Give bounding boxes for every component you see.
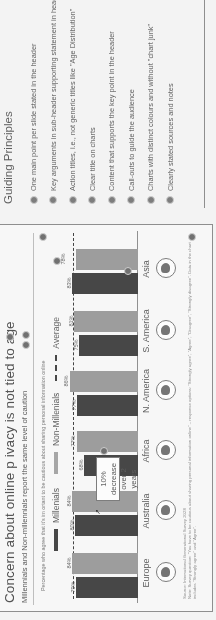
principle-item: Key arguments in sub-header supporting s… <box>44 0 64 204</box>
slide-subtitle: Millennials and Non-millennials report t… <box>20 391 29 603</box>
bullet-2-icon <box>49 196 57 204</box>
bar-chart: 79% 84% 80% 84% 68% 77% 77% 86% 75% 81% <box>62 231 138 603</box>
bar-n-america-non-millennials <box>70 371 138 392</box>
callout-box: 10% decrease over 2 years <box>96 457 120 501</box>
badge-3-icon: 3 <box>22 331 30 339</box>
bar-s-america-non-millennials <box>74 311 138 332</box>
legend-millennials-label: Millenials <box>51 488 61 523</box>
callout-line-1: 10% decrease <box>99 458 119 500</box>
bar-n-america-millennials <box>77 395 138 416</box>
globe-africa-icon <box>156 440 176 460</box>
bullet-7-icon <box>147 196 155 204</box>
cursor-arrow-icon: ↗ <box>94 509 102 515</box>
principle-item: Clear title on charts <box>83 0 103 204</box>
bullet-1-icon <box>30 196 38 204</box>
principle-item: One main point per slide stated in the h… <box>24 0 44 204</box>
principle-text: Clearly stated sources and notes <box>166 83 175 191</box>
guiding-principles-panel: Guiding Principles One main point per sl… <box>0 0 205 208</box>
bullet-6-icon <box>127 196 135 204</box>
principle-text: Content that supports the key point in t… <box>107 31 116 191</box>
header-divider <box>33 233 34 605</box>
principle-text: Key arguments in sub-header supporting s… <box>49 0 58 191</box>
chart-title: Percentage who agree that it's im ortant… <box>40 360 46 591</box>
category-asia: Asia <box>141 239 151 299</box>
globe-australia-icon <box>156 500 176 520</box>
bar-europe-millennials <box>76 577 138 598</box>
badge-7-icon: 7 <box>124 267 132 275</box>
legend-average-dash <box>55 355 57 381</box>
principle-text: One main point per slide stated in the h… <box>29 44 38 192</box>
rotated-slide-canvas: Concern about online p ivacy is not tied… <box>0 0 216 620</box>
bullet-8-icon <box>166 196 174 204</box>
callout-line-2: over 2 years <box>119 458 139 500</box>
value-label: 78% <box>60 247 66 271</box>
globe-asia-icon <box>156 258 176 278</box>
slide: Concern about online p ivacy is not tied… <box>0 224 213 612</box>
principle-item: Action titles, i.e., not generic titles … <box>63 0 83 204</box>
slide-footer: Source: International Generational Surve… <box>182 239 198 599</box>
principle-item: Clearly stated sources and notes <box>161 0 181 204</box>
legend-non-millennials-swatch <box>54 452 58 474</box>
legend-non-millennials-label: Non-Millenials <box>51 393 61 446</box>
category-australia: Australia <box>141 481 151 541</box>
value-label: 86% <box>63 369 69 393</box>
footer-note: Note: Survey question: "You have to be c… <box>187 239 197 599</box>
bullet-5-icon <box>108 196 116 204</box>
badge-2-icon: 2 <box>22 341 30 349</box>
legend-millennials-swatch <box>54 529 58 551</box>
badge-6-icon: 6 <box>100 447 108 455</box>
category-s-america: S. America <box>141 301 151 361</box>
category-europe: Europe <box>141 543 151 603</box>
legend-average-label: Average <box>51 317 61 349</box>
guiding-principles-title: Guiding Principles <box>2 111 14 204</box>
principle-item: Charts with distinct colours and without… <box>141 0 161 204</box>
category-africa: Africa <box>141 421 151 481</box>
badge-1-icon: 1 <box>6 333 14 341</box>
principle-text: Call-outs to guide the audience <box>127 89 136 191</box>
globe-s-america-icon <box>156 320 176 340</box>
category-n-america: N. America <box>141 361 151 421</box>
chart-legend: Millenials Non-Millenials Average <box>51 317 61 551</box>
bullet-4-icon <box>88 196 96 204</box>
principle-text: Clear title on charts <box>88 127 97 191</box>
globe-n-america-icon <box>156 380 176 400</box>
bullet-3-icon <box>69 196 77 204</box>
bar-australia-millennials <box>75 515 138 536</box>
bar-europe-non-millennials <box>72 553 138 574</box>
value-label: 77% <box>70 429 76 453</box>
bar-s-america-millennials <box>79 335 138 356</box>
principle-text: Action titles, i.e., not generic titles … <box>68 9 77 191</box>
guiding-principles-list: One main point per slide stated in the h… <box>24 0 180 204</box>
slide-title: Concern about online p ivacy is not tied… <box>2 321 17 603</box>
badge-4-icon: 4 <box>39 233 47 241</box>
globe-europe-icon <box>156 562 176 582</box>
principle-text: Charts with distinct colours and without… <box>146 24 155 191</box>
principle-item: Content that supports the key point in t… <box>102 0 122 204</box>
badge-8-icon: 8 <box>188 233 196 241</box>
bar-asia-millennials <box>72 273 138 294</box>
principle-item: Call-outs to guide the audience <box>122 0 142 204</box>
